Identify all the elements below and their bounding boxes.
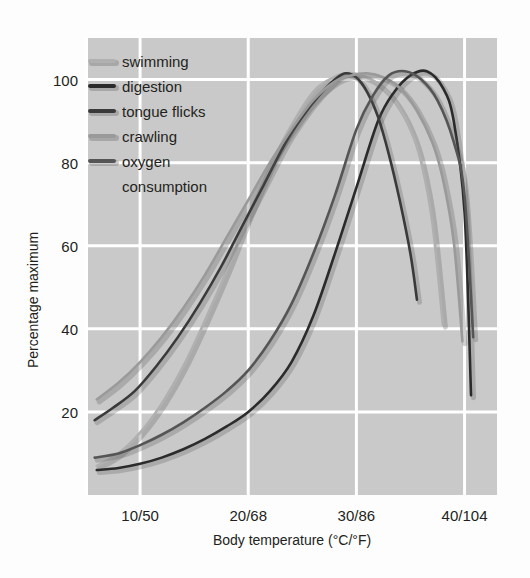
x-tick-label: 30/86 (338, 507, 376, 524)
x-tick-label: 40/104 (442, 507, 488, 524)
y-tick-label: 100 (53, 72, 78, 89)
legend-label-oxygen: oxygen (122, 153, 170, 170)
x-axis-tick-labels: 10/5020/6830/8640/104 (121, 507, 487, 524)
x-tick-label: 20/68 (229, 507, 267, 524)
legend-label-tongue-flicks: tongue flicks (122, 103, 205, 120)
legend-label-consumption: consumption (122, 178, 207, 195)
y-axis-tick-labels: 20406080100 (53, 72, 78, 421)
x-tick-label: 10/50 (121, 507, 159, 524)
performance-curve-chart: 20406080100 10/5020/6830/8640/104 Percen… (0, 0, 530, 578)
y-tick-label: 40 (61, 321, 78, 338)
legend-label-swimming: swimming (122, 53, 189, 70)
y-tick-label: 20 (61, 404, 78, 421)
y-tick-label: 60 (61, 238, 78, 255)
x-axis-title: Body temperature (°C/°F) (213, 532, 371, 548)
y-tick-label: 80 (61, 155, 78, 172)
legend-label-crawling: crawling (122, 128, 177, 145)
legend-label-digestion: digestion (122, 78, 182, 95)
y-axis-title: Percentage maximum (25, 232, 41, 368)
figure-container: 20406080100 10/5020/6830/8640/104 Percen… (0, 0, 530, 578)
